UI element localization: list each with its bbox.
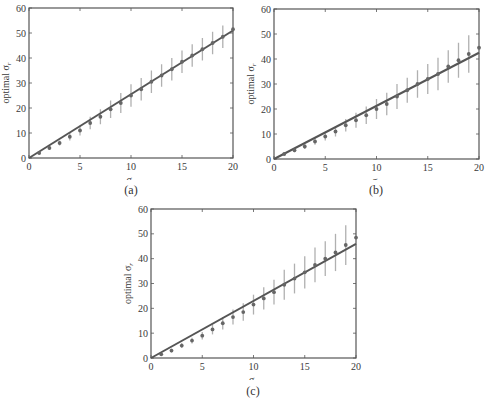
x-tick-label: 0	[272, 162, 277, 173]
y-tick-label: 40	[261, 54, 271, 65]
data-point-marker	[282, 283, 286, 287]
y-tick-label: 0	[21, 153, 26, 164]
data-point-marker	[282, 152, 286, 156]
x-tick-label: 10	[126, 161, 136, 172]
x-tick-label: 15	[177, 161, 187, 172]
y-tick-label: 0	[143, 353, 148, 364]
data-point-marker	[180, 60, 184, 64]
x-tick-label: 20	[474, 162, 484, 173]
plot-frame	[274, 9, 479, 159]
chart-a-plot: 010203040506005101520σnoptimal σr	[0, 0, 244, 180]
data-point-marker	[293, 148, 297, 152]
data-point-marker	[416, 82, 420, 86]
data-point-marker	[293, 277, 297, 281]
data-point-marker	[354, 236, 358, 240]
data-point-marker	[344, 243, 348, 247]
x-tick-label: 5	[200, 361, 205, 372]
data-point-marker	[68, 135, 72, 139]
y-tick-label: 30	[16, 78, 26, 89]
data-point-marker	[457, 58, 461, 62]
data-point-marker	[395, 95, 399, 99]
x-tick-label: 10	[372, 162, 382, 173]
data-point-marker	[170, 349, 174, 353]
data-point-marker	[477, 46, 481, 50]
caption-c: (c)	[233, 384, 273, 399]
x-tick-label: 20	[228, 161, 238, 172]
x-axis-label: σn	[372, 175, 381, 180]
data-point-marker	[426, 77, 430, 81]
data-point-marker	[313, 263, 317, 267]
fit-line	[274, 53, 479, 159]
x-tick-label: 5	[78, 161, 83, 172]
data-point-marker	[436, 72, 440, 76]
y-tick-label: 30	[261, 79, 271, 90]
y-tick-label: 10	[16, 128, 26, 139]
data-point-marker	[150, 80, 154, 84]
data-point-marker	[364, 113, 368, 117]
data-point-marker	[119, 101, 123, 105]
data-point-marker	[58, 141, 62, 145]
y-axis-label: optimal σr	[0, 62, 13, 103]
chart-panel-a: 010203040506005101520σnoptimal σr	[0, 0, 244, 180]
chart-panel-b: 010203040506005101520σnoptimal σr	[244, 0, 488, 180]
x-tick-label: 5	[323, 162, 328, 173]
chart-b-plot: 010203040506005101520σnoptimal σr	[244, 0, 488, 180]
data-point-marker	[231, 315, 235, 319]
x-axis-label: σn	[127, 174, 136, 180]
data-point-marker	[334, 251, 338, 255]
y-tick-label: 10	[261, 129, 271, 140]
x-tick-label: 15	[300, 361, 310, 372]
data-point-marker	[467, 52, 471, 56]
data-point-marker	[385, 102, 389, 106]
data-point-marker	[405, 88, 409, 92]
caption-a: (a)	[111, 183, 151, 198]
data-point-marker	[313, 140, 317, 144]
x-tick-label: 0	[27, 161, 32, 172]
data-point-marker	[334, 130, 338, 134]
fit-line	[151, 244, 356, 358]
y-tick-label: 50	[138, 228, 148, 239]
caption-b: (b)	[356, 183, 396, 198]
x-tick-label: 10	[249, 361, 259, 372]
data-point-marker	[221, 35, 225, 39]
data-point-marker	[200, 334, 204, 338]
y-tick-label: 60	[138, 204, 148, 215]
data-point-marker	[37, 151, 41, 155]
y-tick-label: 20	[261, 104, 271, 115]
data-point-marker	[211, 41, 215, 45]
data-point-marker	[252, 303, 256, 307]
x-tick-label: 15	[423, 162, 433, 173]
data-point-marker	[323, 135, 327, 139]
y-axis-label: optimal σr	[245, 63, 258, 104]
data-point-marker	[129, 94, 133, 98]
y-tick-label: 60	[16, 3, 26, 14]
data-point-marker	[241, 310, 245, 314]
data-point-marker	[88, 121, 92, 125]
data-point-marker	[78, 129, 82, 133]
data-point-marker	[446, 65, 450, 69]
data-point-marker	[48, 146, 52, 150]
y-tick-label: 30	[138, 278, 148, 289]
data-point-marker	[303, 145, 307, 149]
x-tick-label: 20	[351, 361, 361, 372]
data-point-marker	[180, 344, 184, 348]
data-point-marker	[160, 74, 164, 78]
y-tick-label: 60	[261, 4, 271, 15]
data-point-marker	[139, 87, 143, 91]
data-point-marker	[221, 321, 225, 325]
data-point-marker	[303, 270, 307, 274]
y-tick-label: 0	[266, 154, 271, 165]
plot-frame	[151, 209, 356, 358]
data-point-marker	[375, 107, 379, 111]
chart-panel-c: 010203040506005101520σnoptimal σr	[122, 200, 366, 380]
data-point-marker	[344, 123, 348, 127]
y-tick-label: 40	[138, 253, 148, 264]
chart-c-plot: 010203040506005101520σnoptimal σr	[122, 200, 366, 380]
data-point-marker	[190, 339, 194, 343]
data-point-marker	[231, 27, 235, 31]
y-tick-label: 20	[138, 303, 148, 314]
data-point-marker	[211, 328, 215, 332]
x-tick-label: 0	[149, 361, 154, 372]
data-point-marker	[201, 47, 205, 51]
data-point-marker	[262, 297, 266, 301]
